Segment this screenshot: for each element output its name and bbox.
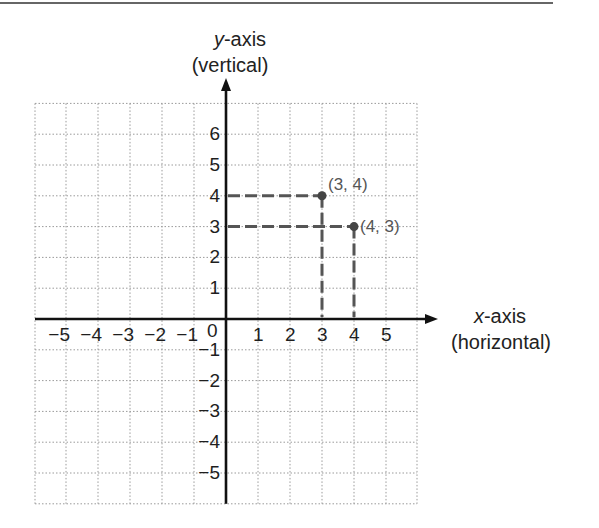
x-tick-label: −1 — [176, 325, 198, 344]
x-tick-label: −5 — [48, 325, 70, 344]
y-tick-label: 3 — [209, 217, 220, 236]
data-point — [350, 222, 359, 231]
y-tick-label: −2 — [198, 371, 220, 390]
y-tick-label: −4 — [198, 432, 220, 451]
x-axis-subtitle: (horizontal) — [436, 332, 566, 352]
y-tick-label: −5 — [198, 463, 220, 482]
x-tick-label: 4 — [349, 325, 360, 344]
y-tick-label: 1 — [209, 278, 220, 297]
y-tick-label: 5 — [209, 155, 220, 174]
coordinate-plane — [0, 0, 599, 528]
x-tick-label: 5 — [381, 325, 392, 344]
y-axis-arrow-icon — [221, 78, 231, 91]
x-tick-label: 1 — [253, 325, 264, 344]
point-label: (3, 4) — [328, 176, 368, 193]
y-tick-label: −1 — [198, 340, 220, 359]
x-tick-label: 2 — [285, 325, 296, 344]
x-tick-label: −4 — [80, 325, 102, 344]
y-axis-subtitle: (vertical) — [180, 55, 280, 75]
y-tick-label: 4 — [209, 186, 220, 205]
coordinate-plane-figure: y-axis (vertical) x-axis (horizontal) −5… — [0, 0, 599, 528]
y-tick-label: 6 — [209, 124, 220, 143]
y-tick-label: 2 — [209, 247, 220, 266]
x-tick-label: −3 — [112, 325, 134, 344]
x-tick-label: 3 — [317, 325, 328, 344]
x-tick-label: −2 — [144, 325, 166, 344]
y-axis-title: y-axis — [190, 29, 290, 49]
data-point — [318, 191, 327, 200]
origin-label: 0 — [207, 321, 218, 340]
x-axis-title: x-axis — [450, 306, 550, 326]
point-label: (4, 3) — [360, 218, 400, 235]
y-tick-label: −3 — [198, 401, 220, 420]
x-axis-arrow-icon — [425, 314, 438, 324]
